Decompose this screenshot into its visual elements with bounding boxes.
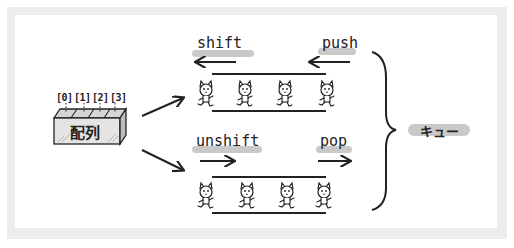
bottom-queue-cat-4 bbox=[316, 183, 331, 208]
bottom-queue-cat-2 bbox=[239, 183, 254, 208]
array-label: 配列 bbox=[70, 121, 100, 142]
bottom-queue-cat-3 bbox=[279, 183, 294, 208]
brace-icon bbox=[372, 52, 396, 210]
top-queue-cat-2 bbox=[237, 81, 252, 106]
arrow-to-top-queue bbox=[142, 98, 183, 116]
arrow-to-bottom-queue bbox=[142, 150, 183, 170]
top-queue-cat-1 bbox=[198, 81, 213, 106]
top-queue-cat-3 bbox=[277, 81, 292, 106]
bottom-queue-cat-1 bbox=[198, 183, 213, 208]
top-queue-cat-4 bbox=[319, 81, 334, 106]
